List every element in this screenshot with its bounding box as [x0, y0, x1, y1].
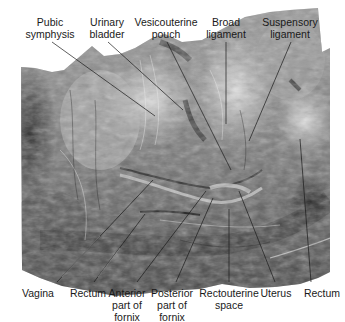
label-line: Posterior — [151, 287, 193, 299]
label-rectouterine-space: Rectouterine space — [199, 287, 259, 311]
label-line: ligament — [262, 28, 317, 40]
label-line: Suspensory — [262, 16, 317, 28]
label-vagina: Vagina — [22, 287, 54, 299]
label-line: fornix — [109, 311, 146, 322]
label-line: Rectouterine — [199, 287, 259, 299]
label-urinary-bladder: Urinary bladder — [89, 16, 124, 40]
anatomy-figure: Pubic symphysis Urinary bladder Vesicout… — [0, 0, 345, 322]
label-line: Rectum — [70, 287, 106, 299]
label-line: symphysis — [25, 28, 74, 40]
label-posterior-fornix: Posterior part of fornix — [151, 287, 193, 322]
label-rectum-left: Rectum — [70, 287, 106, 299]
label-line: Vagina — [22, 287, 54, 299]
specimen-photo — [0, 0, 345, 322]
specimen-tissue — [0, 0, 345, 322]
label-anterior-fornix: Anterior part of fornix — [109, 287, 146, 322]
label-line: space — [199, 299, 259, 311]
label-broad-ligament: Broad ligament — [206, 16, 246, 40]
label-line: Vesicouterine — [134, 16, 197, 28]
label-uterus: Uterus — [261, 287, 292, 299]
label-line: Broad — [206, 16, 246, 28]
label-line: Uterus — [261, 287, 292, 299]
label-line: Pubic — [25, 16, 74, 28]
label-line: fornix — [151, 311, 193, 322]
label-pubic-symphysis: Pubic symphysis — [25, 16, 74, 40]
label-vesicouterine-pouch: Vesicouterine pouch — [134, 16, 197, 40]
label-line: part of — [151, 299, 193, 311]
label-line: Anterior — [109, 287, 146, 299]
label-line: Rectum — [304, 287, 340, 299]
label-rectum-right: Rectum — [304, 287, 340, 299]
label-line: pouch — [134, 28, 197, 40]
label-line: Urinary — [89, 16, 124, 28]
label-line: bladder — [89, 28, 124, 40]
label-line: part of — [109, 299, 146, 311]
label-line: ligament — [206, 28, 246, 40]
label-suspensory-ligament: Suspensory ligament — [262, 16, 317, 40]
